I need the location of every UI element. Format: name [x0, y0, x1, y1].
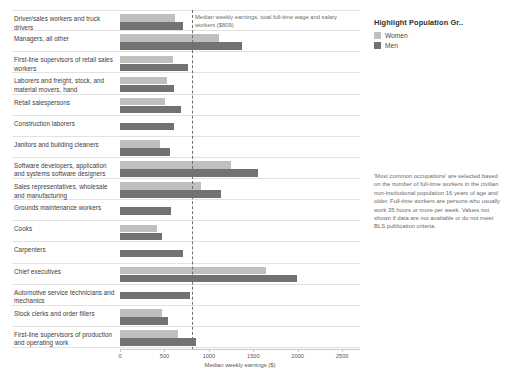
bar-men[interactable] [120, 22, 183, 30]
x-axis-tick [164, 349, 165, 352]
x-axis-tick [209, 349, 210, 352]
legend-item-women[interactable]: Women [374, 32, 508, 39]
legend-swatch-women [374, 32, 381, 39]
table-row[interactable]: Construction laborers [12, 116, 360, 137]
bar-women[interactable] [120, 14, 175, 22]
bar-group [120, 31, 360, 51]
chart-plot-area: Driver/sales workers and truck driversMa… [12, 10, 360, 350]
bar-men[interactable] [120, 233, 162, 241]
table-row[interactable]: First-line supervisors of retail sales w… [12, 52, 360, 73]
bar-women[interactable] [120, 34, 219, 42]
chart-footnote: 'Most common occupations' are selected b… [374, 172, 504, 231]
legend-item-men[interactable]: Men [374, 42, 508, 49]
bar-men[interactable] [120, 275, 297, 283]
bar-men[interactable] [120, 85, 174, 93]
x-axis-tick-label: 1500 [247, 353, 259, 359]
table-row[interactable]: Managers, all other [12, 31, 360, 52]
table-row[interactable]: Software developers, application and sys… [12, 158, 360, 179]
bar-group [120, 242, 360, 262]
legend-label-men: Men [385, 42, 398, 49]
x-axis-tick [298, 349, 299, 352]
bar-women[interactable] [120, 309, 162, 317]
occupation-label: Stock clerks and order fillers [12, 306, 120, 322]
bar-women[interactable] [120, 98, 165, 106]
table-row[interactable]: Grounds maintenance workers [12, 200, 360, 221]
bar-group [120, 264, 360, 284]
bar-group [120, 116, 360, 136]
table-row[interactable]: Chief executives [12, 264, 360, 285]
bar-men[interactable] [120, 106, 181, 114]
reference-line [192, 10, 193, 350]
bar-women[interactable] [120, 140, 160, 148]
occupation-rows: Driver/sales workers and truck driversMa… [12, 10, 360, 348]
x-axis-tick [342, 349, 343, 352]
bar-men[interactable] [120, 42, 242, 50]
reference-line-label: Median weekly earnings, total full-time … [195, 13, 345, 29]
legend-swatch-men [374, 42, 381, 49]
table-row[interactable]: Janitors and building cleaners [12, 137, 360, 158]
bar-women[interactable] [120, 77, 167, 85]
x-axis-tick-label: 0 [118, 353, 121, 359]
occupation-label: Managers, all other [12, 31, 120, 47]
occupation-label: Grounds maintenance workers [12, 200, 120, 216]
bar-group [120, 327, 360, 347]
legend: Highlight Population Gr.. Women Men [374, 18, 508, 51]
bar-group [120, 285, 360, 305]
table-row[interactable]: Retail salespersons [12, 95, 360, 116]
table-row[interactable]: Cooks [12, 221, 360, 242]
bar-group [120, 52, 360, 72]
bar-men[interactable] [120, 123, 174, 131]
bar-men[interactable] [120, 317, 168, 325]
x-axis-tick-label: 1000 [203, 353, 215, 359]
legend-title: Highlight Population Gr.. [374, 18, 508, 27]
bar-men[interactable] [120, 148, 170, 156]
bar-women[interactable] [120, 56, 173, 64]
occupation-label: Janitors and building cleaners [12, 137, 120, 153]
table-row[interactable]: Sales representatives, wholesale and man… [12, 179, 360, 200]
legend-label-women: Women [385, 32, 408, 39]
table-row[interactable]: Stock clerks and order fillers [12, 306, 360, 327]
occupation-label: Chief executives [12, 264, 120, 280]
x-axis-title: Median weekly earnings ($) [205, 362, 276, 368]
bar-group [120, 73, 360, 93]
table-row[interactable]: Carpenters [12, 242, 360, 263]
chart-visualization: Driver/sales workers and truck driversMa… [0, 0, 513, 381]
bar-women[interactable] [120, 161, 231, 169]
bar-group [120, 179, 360, 199]
bar-men[interactable] [120, 207, 171, 215]
bar-men[interactable] [120, 338, 196, 346]
bar-men[interactable] [120, 190, 221, 198]
bar-group [120, 221, 360, 241]
bar-women[interactable] [120, 182, 201, 190]
table-row[interactable]: First-line supervisors of production and… [12, 327, 360, 348]
x-axis: 05001000150020002500 Median weekly earni… [120, 349, 360, 375]
bar-group [120, 158, 360, 178]
x-axis-tick [120, 349, 121, 352]
occupation-label: First-line supervisors of production and… [12, 327, 120, 351]
x-axis-tick-label: 2000 [292, 353, 304, 359]
x-axis-line [120, 349, 360, 350]
x-axis-tick-label: 2500 [336, 353, 348, 359]
occupation-label: Construction laborers [12, 116, 120, 132]
bar-men[interactable] [120, 169, 258, 177]
x-axis-tick [253, 349, 254, 352]
x-axis-tick-label: 500 [160, 353, 169, 359]
table-row[interactable]: Laborers and freight, stock, and materia… [12, 73, 360, 94]
occupation-label: Cooks [12, 221, 120, 237]
table-row[interactable]: Automotive service technicians and mecha… [12, 285, 360, 306]
bar-group [120, 95, 360, 115]
occupation-label: Carpenters [12, 242, 120, 258]
bar-group [120, 306, 360, 326]
bar-men[interactable] [120, 64, 188, 72]
occupation-label: Retail salespersons [12, 95, 120, 111]
bar-women[interactable] [120, 330, 178, 338]
bar-men[interactable] [120, 292, 190, 300]
bar-women[interactable] [120, 225, 157, 233]
bar-group [120, 200, 360, 220]
bar-men[interactable] [120, 250, 183, 258]
bar-group [120, 137, 360, 157]
